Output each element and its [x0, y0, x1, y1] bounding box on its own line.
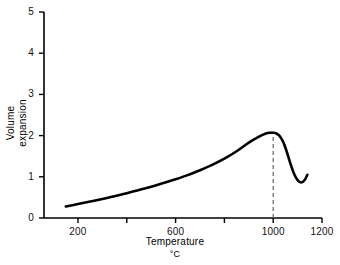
x-tick-label: 1200	[305, 226, 339, 237]
x-axis-label-text: Temperature	[146, 236, 204, 247]
chart-figure: Volume expansion Temperature °C 01234520…	[0, 0, 340, 265]
y-tick-label: 2	[20, 130, 34, 141]
y-tick-label: 5	[20, 6, 34, 17]
x-axis-label: Temperature °C	[120, 236, 230, 260]
data-series-line	[66, 133, 308, 207]
x-tick-label: 200	[61, 226, 95, 237]
y-tick-label: 3	[20, 88, 34, 99]
y-tick-label: 1	[20, 171, 34, 182]
x-tick-label: 1000	[256, 226, 290, 237]
y-tick-label: 4	[20, 47, 34, 58]
y-axis-label-line1: Volume	[5, 106, 17, 141]
x-tick-label: 600	[159, 226, 193, 237]
axis-lines	[44, 12, 322, 218]
x-axis-units: °C	[120, 248, 230, 260]
y-tick-label: 0	[20, 212, 34, 223]
